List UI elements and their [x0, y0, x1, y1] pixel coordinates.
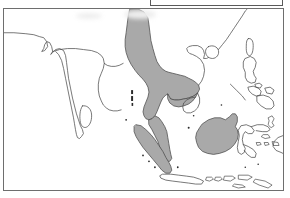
coastline-palawan — [230, 84, 245, 100]
coastline-sri-lanka — [80, 106, 92, 128]
island-speck-3 — [148, 160, 150, 162]
island-speck-8 — [221, 104, 223, 106]
legend-caption-box — [150, 0, 283, 6]
island-timor — [253, 179, 272, 188]
coastline-philippines-small-1 — [255, 83, 262, 88]
island-sumba — [232, 184, 245, 188]
coastline-sulawesi-south — [243, 145, 256, 158]
coastline-taiwan — [246, 38, 253, 55]
island-halmahera — [268, 116, 274, 128]
coastline-mindanao — [257, 95, 274, 109]
island-speck-6 — [188, 127, 190, 129]
island-moluccas-1 — [261, 135, 270, 139]
island-sumbawa — [223, 176, 235, 181]
island-lombok — [214, 177, 222, 181]
island-andaman-2 — [131, 96, 133, 101]
island-moluccas-2 — [256, 143, 261, 146]
coastline-philippines-small-2 — [265, 87, 274, 94]
coastline-java — [160, 174, 204, 184]
island-speck-2 — [142, 154, 144, 156]
coastline-bengal — [104, 63, 123, 66]
island-bali — [206, 177, 214, 181]
island-andaman-1 — [131, 90, 133, 94]
coastline-luzon — [243, 56, 256, 83]
map-canvas: .coast { fill: #ffffff; stroke: #4a4a4a;… — [4, 9, 283, 190]
island-speck-9 — [244, 166, 246, 168]
island-speck-10 — [257, 163, 259, 165]
coastline-indochina-east — [187, 9, 248, 85]
coastline-north-india — [53, 49, 122, 111]
island-nicobar-1 — [132, 103, 134, 106]
coastline-sulawesi — [237, 125, 254, 155]
island-flores — [238, 175, 252, 180]
shaded-range-borneo — [196, 114, 239, 155]
distribution-map-figure: .coast { fill: #ffffff; stroke: #4a4a4a;… — [0, 0, 290, 198]
island-speck-1 — [125, 119, 127, 121]
island-moluccas-3 — [264, 143, 269, 146]
island-speck-7 — [193, 115, 195, 117]
map-frame: .coast { fill: #ffffff; stroke: #4a4a4a;… — [3, 8, 284, 191]
island-speck-5 — [177, 166, 179, 168]
island-speck-4 — [154, 166, 156, 168]
coastline-hainan — [206, 46, 219, 59]
